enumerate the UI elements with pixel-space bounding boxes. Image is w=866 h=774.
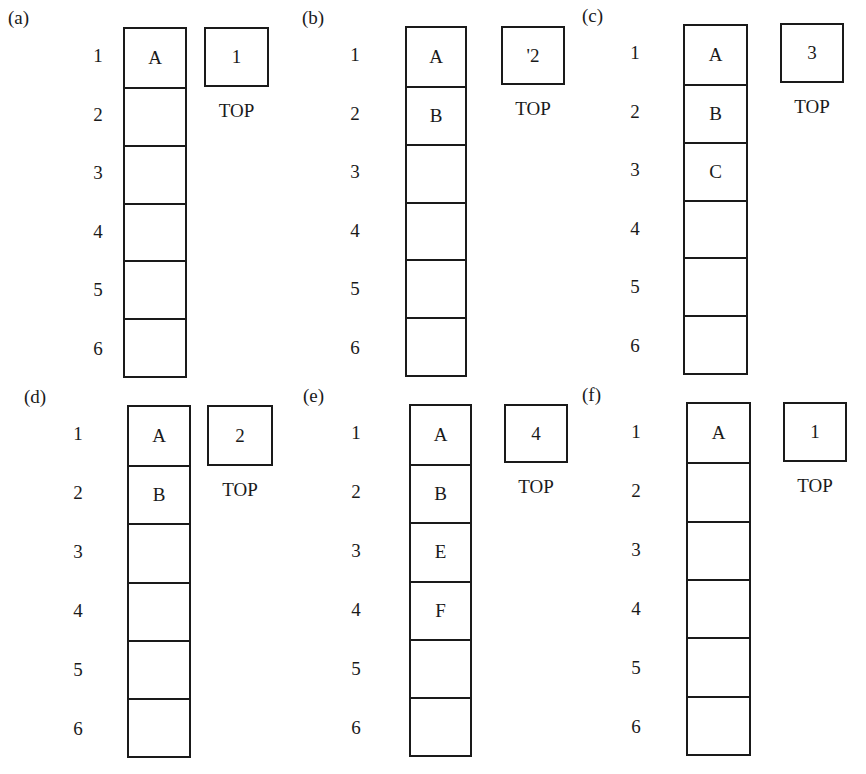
panel-b-top-pointer-box: '2 [501,26,565,85]
panel-d-stack-cell [129,582,189,640]
panel-a-row-index: 1 [88,46,108,65]
panel-b-stack-cell [407,202,465,260]
panel-b-stack-cell: B [407,86,465,144]
panel-a-row-index: 6 [88,339,108,358]
panel-b-stack-cell [407,259,465,317]
panel-f-stack-cell: A [688,404,749,462]
panel-a-stack-cell [125,145,185,203]
panel-c-row-index: 3 [625,160,645,179]
panel-b-row-index: 6 [345,338,365,357]
panel-e-top-label: TOP [504,477,568,496]
panel-f-stack-cell [688,696,749,754]
panel-b-top-label: TOP [501,99,565,118]
panel-e-row-index: 3 [346,541,366,560]
panel-c-row-index: 1 [625,43,645,62]
panel-b-row-index: 2 [345,104,365,123]
panel-f-top-pointer-box: 1 [783,402,847,462]
panel-c-row-index: 6 [625,336,645,355]
panel-d-stack-cell: B [129,465,189,523]
panel-a-row-index: 4 [88,222,108,241]
panel-d-stack-cell [129,640,189,698]
panel-e-stack: ABEF [409,404,472,757]
panel-a-stack-cell [125,260,185,318]
panel-b-row-index: 1 [345,45,365,64]
panel-a-top-label: TOP [204,101,269,120]
panel-f-row-index: 1 [626,422,646,441]
panel-a-stack: A [123,27,187,378]
panel-c-row-index: 4 [625,219,645,238]
panel-d-top-pointer-box: 2 [207,405,273,466]
panel-e-row-index: 2 [346,482,366,501]
panel-c-top-value: 3 [807,42,817,64]
panel-c-top-label: TOP [780,97,844,116]
panel-e-row-index: 1 [346,423,366,442]
panel-c-stack-cell: B [685,84,746,142]
panel-e-stack-cell [411,697,470,755]
panel-e-stack-cell: F [411,581,470,639]
panel-c-stack-cell: A [685,26,746,84]
panel-d-label: (d) [24,387,46,406]
panel-a-stack-cell [125,203,185,261]
panel-f-top-label: TOP [783,476,847,495]
panel-d-row-index: 4 [68,601,88,620]
panel-b-row-index: 3 [345,162,365,181]
panel-f-row-index: 6 [626,717,646,736]
panel-b-stack: AB [405,26,467,377]
panel-a-top-value: 1 [232,46,242,68]
panel-e-label: (e) [303,386,324,405]
panel-b-stack-cell: A [407,28,465,86]
panel-c-stack-cell [685,200,746,258]
panel-b-stack-cell [407,317,465,375]
panel-a-row-index: 5 [88,280,108,299]
panel-b-top-value: '2 [527,45,540,67]
panel-d-row-index: 6 [68,719,88,738]
panel-a-row-index: 3 [88,163,108,182]
panel-f-stack-cell [688,521,749,579]
panel-a-stack-cell [125,87,185,145]
panel-b-label: (b) [302,8,324,27]
panel-f-stack-cell [688,637,749,695]
panel-d-row-index: 3 [68,542,88,561]
panel-f-stack-cell [688,462,749,520]
panel-c-stack: ABC [683,24,748,375]
panel-c-stack-cell: C [685,142,746,200]
panel-e-row-index: 5 [346,659,366,678]
panel-f-row-index: 5 [626,658,646,677]
panel-e-row-index: 4 [346,600,366,619]
panel-e-row-index: 6 [346,718,366,737]
panel-e-stack-cell: A [411,406,470,464]
panel-f-row-index: 4 [626,599,646,618]
panel-e-stack-cell: B [411,464,470,522]
panel-d-row-index: 1 [68,424,88,443]
panel-f-row-index: 2 [626,481,646,500]
panel-f-stack-cell [688,579,749,637]
panel-f-row-index: 3 [626,540,646,559]
panel-d-stack-cell [129,523,189,581]
panel-d-stack-cell: A [129,407,189,465]
panel-a-label: (a) [8,8,29,27]
panel-d-row-index: 5 [68,660,88,679]
panel-b-row-index: 5 [345,279,365,298]
panel-f-top-value: 1 [810,421,820,443]
panel-c-top-pointer-box: 3 [780,23,844,83]
panel-e-top-pointer-box: 4 [504,404,568,463]
panel-d-stack-cell [129,698,189,756]
panel-d-stack: AB [127,405,191,758]
panel-b-stack-cell [407,144,465,202]
panel-c-row-index: 2 [625,102,645,121]
panel-d-top-label: TOP [207,480,273,499]
panel-a-stack-cell [125,318,185,376]
panel-e-top-value: 4 [531,423,541,445]
panel-c-stack-cell [685,257,746,315]
panel-b-row-index: 4 [345,221,365,240]
panel-e-stack-cell: E [411,522,470,580]
panel-e-stack-cell [411,639,470,697]
panel-f-label: (f) [582,385,601,404]
panel-d-top-value: 2 [235,425,245,447]
panel-c-label: (c) [582,6,603,25]
panel-f-stack: A [686,402,751,756]
panel-a-row-index: 2 [88,105,108,124]
panel-a-stack-cell: A [125,29,185,87]
panel-c-row-index: 5 [625,277,645,296]
panel-c-stack-cell [685,315,746,373]
